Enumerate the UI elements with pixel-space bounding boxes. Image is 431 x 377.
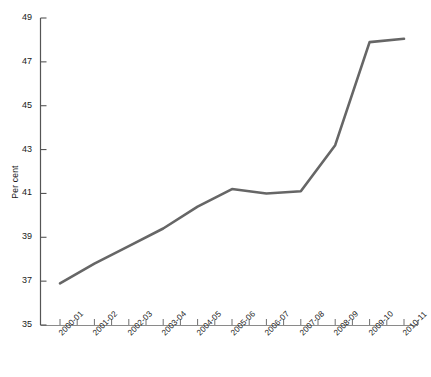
y-axis-ticks (41, 18, 47, 325)
y-tick-label: 47 (10, 56, 32, 66)
y-tick-label: 45 (10, 100, 32, 110)
y-tick-label: 43 (10, 144, 32, 154)
y-tick-label: 41 (10, 187, 32, 197)
y-tick-label: 37 (10, 275, 32, 285)
chart-container: Per cent 4947454341393735 2000-012001-02… (0, 0, 431, 377)
y-axis-label: Per cent (10, 152, 20, 212)
data-series-line (60, 39, 404, 284)
y-tick-label: 49 (10, 12, 32, 22)
y-tick-label: 35 (10, 319, 32, 329)
y-tick-label: 39 (10, 231, 32, 241)
